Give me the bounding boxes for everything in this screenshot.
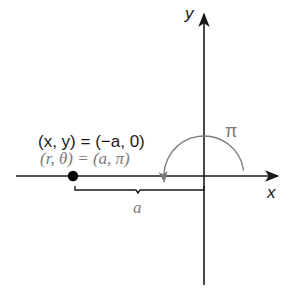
distance-label: a [133,198,142,217]
y-axis-label: y [184,4,195,23]
x-axis-label: x [266,183,276,202]
distance-bracket [75,186,204,193]
polar-diagram: y x (x, y) = (−a, 0) (r, θ) = (a, π) π a [0,0,293,295]
polar-coordinate-label: (r, θ) = (a, π) [40,149,130,168]
angle-label: π [225,121,237,141]
point-marker [68,171,78,181]
